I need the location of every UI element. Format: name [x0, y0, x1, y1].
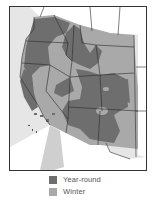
legend-item-year-round: Year-round	[49, 174, 101, 185]
range-map-graphic	[10, 7, 146, 170]
map-legend: Year-round Winter	[49, 174, 101, 198]
legend-item-winter: Winter	[49, 186, 101, 197]
winter-swatch	[49, 188, 57, 196]
year-round-swatch	[49, 176, 57, 184]
legend-label: Winter	[63, 187, 85, 196]
legend-label: Year-round	[63, 175, 101, 184]
range-map	[9, 6, 147, 171]
